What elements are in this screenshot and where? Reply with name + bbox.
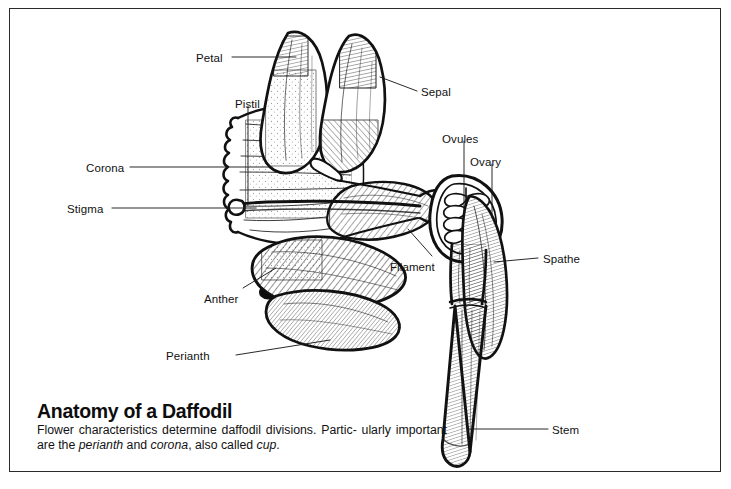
figure-title: Anatomy of a Daffodil [37,401,457,422]
leader-filament [408,229,432,256]
upper-tepals [261,32,385,176]
label-sepal: Sepal [421,86,451,98]
caption-term-cup: cup [256,438,276,452]
caption-line-2-c: , also called [188,438,253,452]
label-spathe: Spathe [543,253,580,265]
label-pistil: Pistil [235,98,260,110]
label-petal: Petal [196,52,223,64]
label-filament: Filament [390,261,435,273]
caption-line-3-end: . [276,438,279,452]
label-perianth: Perianth [166,350,210,362]
label-ovules: Ovules [442,133,478,145]
label-corona: Corona [86,162,124,174]
figure-caption-block: Anatomy of a Daffodil Flower characteris… [37,401,457,452]
figure-description: Flower characteristics determine daffodi… [37,423,447,452]
caption-term-perianth: perianth [79,438,123,452]
label-stem: Stem [552,424,579,436]
label-anther: Anther [204,293,238,305]
label-ovary: Ovary [470,156,501,168]
caption-term-corona: corona [151,438,189,452]
lower-tepals [252,232,411,356]
label-stigma: Stigma [67,203,103,215]
pedicel [448,244,490,308]
caption-line-2-b: and [123,438,150,452]
caption-line-1: Flower characteristics determine daffodi… [37,423,357,437]
figure-page: Petal Pistil Corona Stigma Anther Perian… [0,0,731,489]
